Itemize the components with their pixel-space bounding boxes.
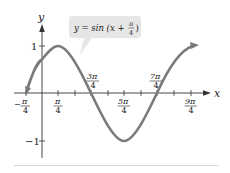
x-axis-label: x	[214, 87, 221, 100]
callout-prefix: y = sin (x +	[73, 23, 125, 33]
tick-3pi-4-den: 4	[91, 81, 96, 90]
tick-pi-4-num: π	[54, 97, 61, 106]
callout-suffix: )	[136, 23, 139, 33]
curve-start-arrow-icon	[25, 86, 31, 95]
y-axis-label: y	[37, 11, 45, 24]
bottom-divider	[14, 165, 219, 166]
function-callout: y = sin (x + π 4 )	[69, 16, 141, 55]
callout-frac-num: π	[128, 20, 134, 28]
callout-frac-den: 4	[129, 29, 133, 37]
tick-neg-pi-4-num: π	[21, 97, 28, 106]
tick-neg-pi-4-den: 4	[23, 106, 28, 115]
sine-curve	[26, 46, 193, 141]
y-tick-label-neg1: −1	[25, 136, 40, 147]
tick-9pi-4-den: 4	[189, 106, 194, 115]
y-axis-arrow-icon	[39, 24, 45, 32]
curve-end-arrow-icon	[190, 42, 199, 49]
tick-7pi-4-num: 7π	[150, 72, 161, 81]
svg-text:y = sin (x +: y = sin (x +	[73, 23, 125, 33]
tick-neg-sign: −	[14, 100, 21, 109]
x-tick-labels: − π 4 π 4 3π 4 5π 4 7π 4 9π 4	[14, 72, 197, 115]
x-axis-arrow-icon	[203, 90, 211, 96]
tick-5pi-4-num: 5π	[118, 97, 129, 106]
tick-9pi-4-num: 9π	[185, 97, 196, 106]
sine-graph: x y 1 −1 y = sin (x +	[0, 0, 230, 173]
tick-pi-4-den: 4	[56, 106, 61, 115]
y-tick-label-1: 1	[31, 41, 37, 52]
tick-3pi-4-num: 3π	[87, 72, 98, 81]
tick-7pi-4-den: 4	[154, 81, 159, 90]
tick-5pi-4-den: 4	[122, 106, 127, 115]
